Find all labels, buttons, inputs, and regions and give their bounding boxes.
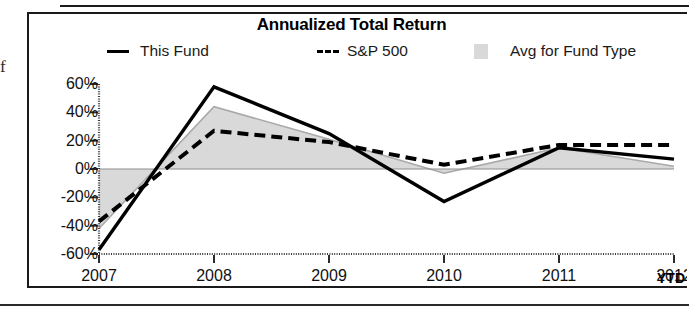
x-axis-tick-label: 2009 — [294, 268, 364, 284]
y-axis-tick-label: -40% — [40, 218, 98, 234]
page-rule-bottom — [0, 304, 689, 306]
y-axis-tick-label: -20% — [40, 189, 98, 205]
x-axis-tick-label: 2011 — [524, 268, 594, 284]
plot-area — [29, 14, 687, 288]
chart-svg — [29, 14, 687, 288]
y-axis-tick-label: 40% — [40, 104, 98, 120]
y-axis-tick-label: 60% — [40, 76, 98, 92]
y-axis-tick-label: -60% — [40, 246, 98, 262]
y-axis-tick-labels: 60%40%20%0%-20%-40%-60% — [34, 14, 98, 288]
x-axis-tick-label: 2007 — [64, 268, 134, 284]
chart-panel: Annualized Total Return This Fund S&P 50… — [27, 12, 687, 288]
y-axis-tick-label: 20% — [40, 133, 98, 149]
y-axis-tick-label: 0% — [40, 161, 98, 177]
page-edge-glyph: f — [0, 58, 14, 75]
x-axis-tick-label: 2008 — [179, 268, 249, 284]
scanned-page: f Annualized Total Return This Fund S&P … — [0, 0, 689, 312]
page-rule-top — [60, 5, 689, 7]
x-axis-ytd-label: YTD — [657, 270, 685, 286]
x-axis-tick-label: 2010 — [409, 268, 479, 284]
